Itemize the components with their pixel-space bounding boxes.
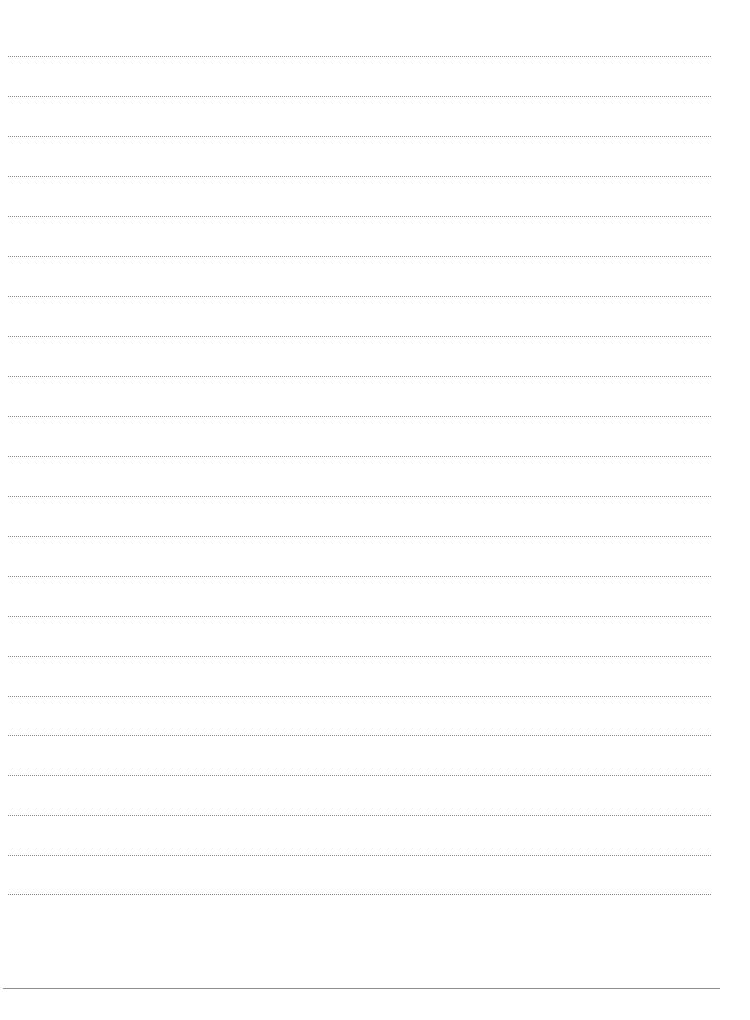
ruled-line: [8, 376, 711, 377]
ruled-line: [8, 176, 711, 177]
ruled-line: [8, 96, 711, 97]
ruled-line: [8, 576, 711, 577]
lined-page: [0, 0, 750, 1020]
ruled-line: [8, 496, 711, 497]
ruled-line: [8, 416, 711, 417]
ruled-line: [8, 216, 711, 217]
ruled-line: [8, 894, 711, 895]
ruled-line: [8, 735, 711, 736]
ruled-line: [8, 696, 711, 697]
ruled-line: [8, 656, 711, 657]
ruled-line: [8, 336, 711, 337]
ruled-line: [8, 815, 711, 816]
ruled-line: [8, 536, 711, 537]
ruled-line: [8, 56, 711, 57]
ruled-line: [8, 136, 711, 137]
ruled-line: [8, 296, 711, 297]
ruled-line: [8, 775, 711, 776]
ruled-line: [8, 256, 711, 257]
ruled-line: [8, 456, 711, 457]
ruled-line: [8, 616, 711, 617]
footer-rule: [3, 988, 720, 989]
ruled-line: [8, 855, 711, 856]
